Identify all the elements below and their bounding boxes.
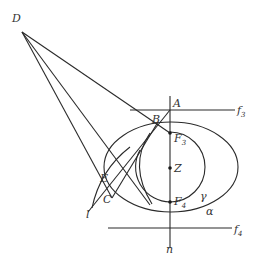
label-C: C: [103, 193, 112, 206]
label-D: D: [11, 12, 21, 25]
line-B-C: [112, 122, 158, 198]
point-F4: [168, 200, 172, 204]
label-F3: F3: [173, 132, 187, 147]
geometry-diagram: D A B E C l Z F3 F4 f3 f4 n γ α: [0, 0, 258, 266]
line-D-lower: [22, 32, 150, 205]
label-B: B: [151, 113, 160, 126]
line-D-F3: [22, 32, 170, 133]
line-D-C: [22, 32, 112, 198]
label-n: n: [166, 243, 173, 256]
label-f3: f3: [236, 104, 246, 119]
point-Z: [168, 166, 172, 170]
label-A: A: [172, 97, 181, 110]
label-alpha: α: [206, 205, 214, 218]
label-gamma: γ: [200, 190, 207, 203]
label-F4: F4: [173, 195, 186, 210]
label-f4: f4: [233, 223, 243, 238]
label-E: E: [99, 172, 108, 185]
point-F3: [168, 131, 172, 135]
label-Z: Z: [173, 162, 182, 175]
label-l: l: [86, 208, 90, 221]
